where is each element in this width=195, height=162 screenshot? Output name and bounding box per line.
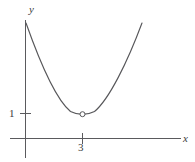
- plot-canvas: [0, 0, 195, 162]
- graph-figure: y x 1 3: [0, 0, 195, 162]
- x-tick-label-3: 3: [78, 142, 84, 153]
- y-tick-label-1: 1: [9, 108, 15, 119]
- y-axis-label: y: [29, 4, 34, 15]
- x-axis-label: x: [183, 133, 188, 144]
- parabola-curve: [26, 23, 142, 114]
- open-circle-marker: [80, 112, 85, 117]
